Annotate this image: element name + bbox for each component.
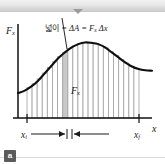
strip — [93, 44, 98, 118]
highlighted-strip — [63, 52, 68, 118]
strip-height-label: Fx — [71, 86, 80, 97]
caption-korean-text: 넓이 — [45, 24, 59, 33]
strip — [47, 67, 52, 118]
strip — [108, 52, 113, 118]
chart-plot-area: 넓이 = ΔA = Fx Δx Fx Fx xi xf x Δx — [0, 11, 165, 146]
strip — [37, 79, 42, 118]
strip — [124, 63, 129, 118]
strip — [103, 48, 108, 118]
strip — [42, 73, 47, 118]
caption-equation: = ΔA = F — [59, 23, 94, 33]
strip — [134, 68, 139, 118]
x-start-tick-label: xi — [21, 131, 27, 141]
strip — [78, 44, 83, 118]
strip — [68, 48, 73, 118]
y-axis-label: Fx — [6, 26, 15, 37]
strip — [58, 57, 63, 118]
x-end-tick-label: xf — [134, 131, 140, 141]
x-axis-label: x — [152, 124, 156, 134]
strip — [129, 66, 134, 118]
strip-height-label-subscript: x — [77, 89, 80, 96]
strip — [83, 43, 88, 119]
riemann-strips — [27, 43, 139, 119]
y-axis-label-subscript: x — [12, 29, 15, 36]
strip — [119, 59, 124, 118]
strip — [32, 84, 37, 118]
x-end-tick-subscript: f — [138, 134, 140, 140]
strip — [52, 62, 57, 118]
strip — [73, 46, 78, 118]
x-start-tick-subscript: i — [25, 134, 27, 140]
caption-equation-tail: Δx — [97, 23, 108, 33]
strip — [88, 43, 93, 118]
figure-panel: 넓이 = ΔA = Fx Δx Fx Fx xi xf x Δx a — [0, 0, 165, 164]
panel-label-badge: a — [4, 150, 16, 162]
strip — [114, 56, 119, 118]
strip — [27, 88, 32, 118]
strip-highlighted — [63, 52, 68, 118]
bottom-chrome-bar: a — [0, 146, 165, 164]
area-equation-caption: 넓이 = ΔA = Fx Δx — [45, 24, 108, 34]
bottom-divider — [0, 157, 165, 158]
strip — [98, 45, 103, 118]
